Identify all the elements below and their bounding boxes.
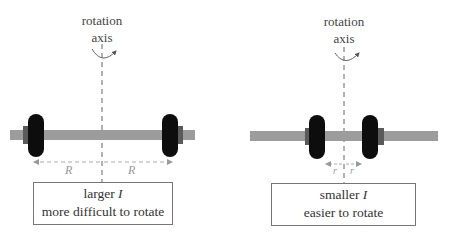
weight-right [162, 114, 178, 157]
radius-label-right: r [350, 165, 354, 176]
caption-line1: smaller I [272, 186, 415, 204]
axis-label-line1: rotation [314, 13, 374, 30]
rotation-arrow-icon [335, 53, 359, 61]
rotation-axis-label: rotation axis [72, 12, 132, 46]
radius-label-right: R [128, 163, 135, 178]
weight-left [28, 114, 44, 157]
caption-line2: more difficult to rotate [34, 203, 172, 221]
axis-label-line1: rotation [72, 12, 132, 29]
caption-box-larger-inertia: larger I more difficult to rotate [33, 182, 173, 225]
radius-label-left: R [65, 163, 72, 178]
caption-prefix: smaller [320, 187, 363, 202]
caption-box-smaller-inertia: smaller I easier to rotate [271, 183, 416, 226]
axis-label-line2: axis [72, 29, 132, 46]
bar [250, 131, 438, 141]
rotation-axis-label: rotation axis [314, 13, 374, 47]
axis-label-line2: axis [314, 30, 374, 47]
moment-of-inertia-symbol: I [118, 186, 123, 201]
radius-label-left: r [333, 165, 337, 176]
right-dumbbell-figure [250, 47, 438, 183]
rotation-arrow-icon [92, 49, 116, 58]
moment-of-inertia-symbol: I [363, 187, 368, 202]
caption-line1: larger I [34, 185, 172, 203]
weight-right [362, 115, 378, 159]
caption-prefix: larger [83, 186, 118, 201]
caption-line2: easier to rotate [272, 204, 415, 222]
weight-left [309, 115, 325, 159]
left-dumbbell-figure [10, 44, 195, 182]
